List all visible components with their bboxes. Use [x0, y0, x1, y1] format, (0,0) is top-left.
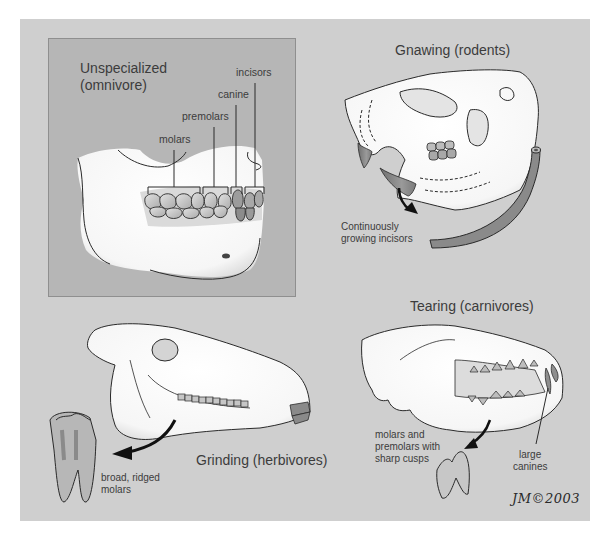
canines-label-line2: canines: [513, 461, 547, 473]
carnivore-note-line3: sharp cusps: [375, 453, 429, 465]
rodent-title: Gnawing (rodents): [395, 42, 510, 58]
herbivore-note-line1: broad, ridged: [101, 472, 160, 484]
omnivore-title-line2: (omnivore): [80, 77, 147, 93]
canines-label-line1: large: [519, 449, 541, 461]
herbivore-note-line2: molars: [101, 484, 131, 496]
carnivore-note-line2: premolars with: [375, 441, 440, 453]
label-canine: canine: [218, 88, 249, 100]
omnivore-title-line1: Unspecialized: [80, 60, 167, 76]
artist-signature: JM©2003: [512, 491, 580, 506]
omnivore-jaw-icon: [77, 83, 264, 279]
rodent-note-line2: growing incisors: [341, 233, 413, 245]
carnivore-note-line1: molars and: [375, 429, 424, 441]
label-incisors: incisors: [236, 66, 272, 78]
label-premolars: premolars: [182, 110, 229, 122]
label-molars: molars: [159, 133, 191, 145]
herbivore-skull-icon: [50, 324, 310, 502]
carnivore-title: Tearing (carnivores): [410, 298, 534, 314]
rodent-note-line1: Continuously: [341, 221, 399, 233]
herbivore-title: Grinding (herbivores): [196, 452, 328, 468]
